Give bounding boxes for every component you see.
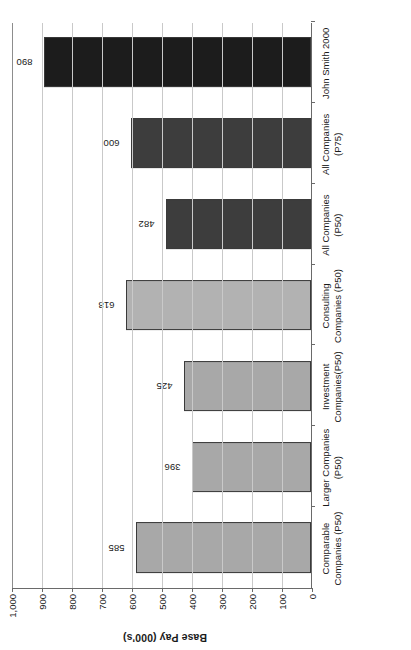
x-category-label-line: (P75) (332, 96, 344, 192)
bar[interactable] (44, 37, 311, 87)
y-tick-mark (132, 588, 133, 592)
plot-area: 585396425618482600890 (12, 23, 312, 589)
bar[interactable] (184, 361, 312, 411)
gridline (72, 23, 73, 588)
y-tick-label: 600 (127, 594, 138, 610)
x-tick-mark (311, 425, 315, 426)
y-tick-mark (12, 588, 13, 592)
gridline (252, 23, 253, 588)
x-category-label-line: John Smith 2000 (320, 15, 332, 111)
y-tick-mark (282, 588, 283, 592)
bar-value-label: 482 (139, 219, 155, 230)
bar-value-label: 585 (108, 542, 124, 553)
y-tick-mark (72, 588, 73, 592)
bar-value-label: 618 (98, 300, 114, 311)
x-tick-mark (311, 183, 315, 184)
y-axis-title: Base Pay (000's) (0, 628, 330, 648)
y-tick-label: 400 (187, 594, 198, 610)
gridline (132, 23, 133, 588)
y-tick-label: 700 (97, 594, 108, 610)
bar-value-label: 425 (156, 380, 172, 391)
x-tick-mark (311, 264, 315, 265)
x-tick-mark (311, 506, 315, 507)
y-tick-mark (192, 588, 193, 592)
bar[interactable] (131, 118, 311, 168)
bar-value-label: 890 (17, 57, 33, 68)
gridline (42, 23, 43, 588)
gridline (102, 23, 103, 588)
y-tick-mark (102, 588, 103, 592)
gridline (222, 23, 223, 588)
y-tick-label: 200 (247, 594, 258, 610)
y-tick-label: 1,000 (7, 594, 18, 618)
gridline (12, 23, 13, 588)
gridline (282, 23, 283, 588)
bar[interactable] (166, 199, 311, 249)
rotated-figure-wrapper: Base Pay (000's) 1,000900800700600500400… (0, 0, 411, 650)
x-tick-mark (311, 102, 315, 103)
y-tick-label: 500 (157, 594, 168, 610)
y-axis-title-text: Base Pay (000's) (123, 632, 207, 644)
y-tick-label: 900 (37, 594, 48, 610)
gridline (162, 23, 163, 588)
y-tick-label: 300 (217, 594, 228, 610)
x-axis-category-labels: ComparableCompanies (P50)Larger Companie… (318, 23, 398, 589)
bar-value-label: 396 (165, 461, 181, 472)
bar-chart-figure: Base Pay (000's) 1,000900800700600500400… (0, 0, 411, 650)
y-axis-tick-labels: 1,0009008007006005004003002001000 (12, 590, 312, 630)
x-category-label: John Smith 2000 (320, 15, 332, 111)
y-tick-mark (42, 588, 43, 592)
x-tick-mark (311, 344, 315, 345)
y-tick-label: 0 (307, 594, 318, 599)
y-tick-label: 100 (277, 594, 288, 610)
y-tick-mark (222, 588, 223, 592)
y-tick-mark (252, 588, 253, 592)
bar[interactable] (126, 280, 311, 330)
bar-value-label: 600 (104, 138, 120, 149)
y-tick-label: 800 (67, 594, 78, 610)
y-tick-mark (312, 588, 313, 592)
x-tick-mark (311, 21, 315, 22)
gridline (192, 23, 193, 588)
y-tick-mark (162, 588, 163, 592)
